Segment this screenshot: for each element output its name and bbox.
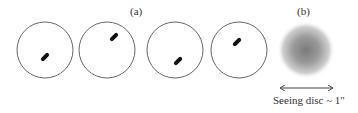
aperture-circle-4 [211,22,267,78]
seeing-disc-caption: Seeing disc ~ 1" [273,94,345,106]
speckle-1 [40,52,50,62]
seeing-disc-blob [277,21,335,79]
aperture-circle-3 [147,22,203,78]
aperture-circle-1 [17,22,73,78]
panel-a-group [17,22,267,78]
label-a: (a) [130,5,142,17]
speckle-2 [109,32,119,42]
label-b: (b) [297,5,310,17]
speckle-3 [173,56,183,66]
speckle-4 [232,37,242,47]
aperture-circle-2 [79,22,135,78]
